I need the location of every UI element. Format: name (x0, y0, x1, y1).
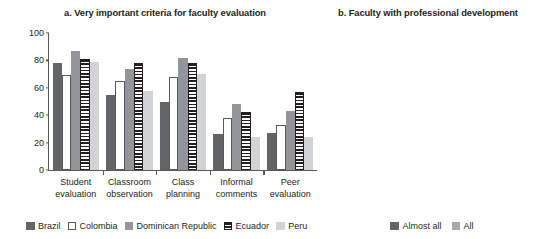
bar-dominican-republic-1 (125, 69, 134, 170)
bar-ecuador-4 (295, 92, 304, 170)
bar-ecuador-1 (134, 63, 143, 170)
legend-label: Colombia (80, 221, 118, 231)
legend-item-dominican-republic[interactable]: Dominican Republic (125, 221, 217, 231)
bar-brazil-3 (213, 134, 222, 170)
chart-a-xlabel-4: Peerevaluation (263, 177, 317, 200)
chart-a-ytick-100: 100 (16, 28, 49, 38)
bar-peru-3 (251, 137, 260, 170)
chart-a-ytick-20: 20 (16, 138, 49, 148)
chart-panel-a: a. Very important criteria for faculty e… (0, 0, 330, 239)
legend-label: Ecuador (236, 221, 270, 231)
legend-swatch-3-icon (224, 222, 233, 231)
chart-b-title: b. Faculty with professional development (338, 7, 534, 19)
bar-brazil-2 (160, 102, 169, 171)
legend-item-ecuador[interactable]: Ecuador (224, 221, 270, 231)
bar-brazil-0 (53, 63, 62, 170)
legend-swatch-4-icon (276, 222, 285, 231)
bar-ecuador-3 (241, 112, 250, 170)
chart-a-ytick-80: 80 (16, 55, 49, 65)
legend-label: Dominican Republic (137, 221, 217, 231)
legend-label: All (464, 221, 474, 231)
legend-label: Almost all (402, 221, 441, 231)
chart-a-legend: BrazilColombiaDominican RepublicEcuadorP… (26, 221, 307, 231)
bar-dominican-republic-0 (71, 51, 80, 170)
legend-item-peru[interactable]: Peru (276, 221, 307, 231)
chart-a-xlabel-2: Classplanning (156, 177, 210, 200)
bar-colombia-4 (276, 125, 285, 170)
chart-a-ytick-40: 40 (16, 110, 49, 120)
chart-a-ytick-60: 60 (16, 83, 49, 93)
chart-panel-b: b. Faculty with professional development… (330, 0, 534, 239)
legend-item-almost-all[interactable]: Almost all (390, 221, 441, 231)
legend-item-brazil[interactable]: Brazil (26, 221, 61, 231)
bar-peru-2 (197, 74, 206, 170)
chart-a-xlabel-0: Studentevaluation (49, 177, 103, 200)
chart-a-group-1: Classroomobservation (103, 33, 157, 170)
bar-brazil-1 (106, 95, 115, 170)
legend-item-colombia[interactable]: Colombia (68, 221, 118, 231)
bar-dominican-republic-2 (178, 58, 187, 170)
chart-b-legend: Almost allAll (330, 221, 534, 231)
legend-swatch-1-icon (68, 222, 77, 231)
chart-a-bars: StudentevaluationClassroomobservationCla… (49, 33, 317, 170)
legend-swatch-0-icon (26, 222, 35, 231)
chart-a-group-4: Peerevaluation (263, 33, 317, 170)
bar-ecuador-2 (188, 63, 197, 170)
chart-a-ytick-0: 0 (16, 165, 49, 175)
bar-dominican-republic-3 (232, 104, 241, 170)
bar-ecuador-0 (80, 59, 89, 170)
legend-label: Peru (288, 221, 307, 231)
chart-a-xlabel-1: Classroomobservation (103, 177, 157, 200)
chart-a-plot-area: Percent 100 80 60 40 20 0 Studentevaluat… (48, 33, 317, 171)
bar-peru-0 (90, 62, 99, 170)
chart-a-xlabel-3: Informalcomments (210, 177, 264, 200)
bar-colombia-0 (62, 75, 71, 170)
bar-brazil-4 (267, 133, 276, 170)
figure-container: a. Very important criteria for faculty e… (0, 0, 534, 239)
bar-colombia-2 (169, 77, 178, 170)
chart-a-group-0: Studentevaluation (49, 33, 103, 170)
chart-a-title: a. Very important criteria for faculty e… (0, 7, 330, 19)
legend-label: Brazil (38, 221, 61, 231)
legend-swatch-b0-icon (390, 222, 399, 231)
bar-peru-4 (304, 137, 313, 170)
bar-colombia-3 (223, 118, 232, 170)
bar-peru-1 (143, 91, 152, 170)
legend-swatch-2-icon (125, 222, 134, 231)
bar-dominican-republic-4 (286, 111, 295, 170)
chart-a-group-3: Informalcomments (210, 33, 264, 170)
chart-a-group-2: Classplanning (156, 33, 210, 170)
bar-colombia-1 (115, 81, 124, 170)
legend-item-all[interactable]: All (452, 221, 474, 231)
legend-swatch-b1-icon (452, 222, 461, 231)
